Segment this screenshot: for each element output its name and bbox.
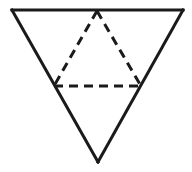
- triangle-figure-svg: [0, 0, 192, 172]
- figure-canvas: [0, 0, 192, 172]
- inner-triangle-right-leg: [97, 11, 141, 86]
- outer-triangle-right-edge: [98, 10, 183, 162]
- outer-triangle: [12, 10, 183, 162]
- inner-dashed-triangle: [54, 11, 141, 86]
- inner-triangle-left-leg: [54, 11, 97, 86]
